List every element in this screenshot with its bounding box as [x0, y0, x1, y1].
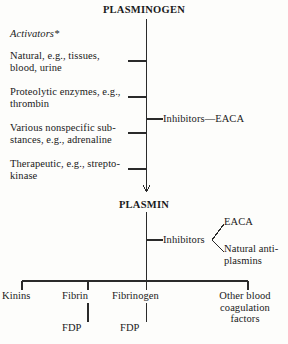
activator-proteolytic-enzymes: Proteolytic enzymes, e.g., thrombin — [10, 86, 144, 109]
product-kinins: Kinins — [2, 290, 58, 302]
activator-therapeutic: Therapeutic, e.g., strepto- kinase — [10, 158, 144, 181]
product-fibrin: Fibrin — [62, 290, 116, 302]
node-plasminogen: PLASMINOGEN — [0, 4, 288, 16]
inhibitor-branch-natural-antiplasmins: Natural anti- plasmins — [224, 243, 288, 266]
activator-nonspecific-substances: Various nonspecific sub- stances, e.g., … — [10, 122, 144, 145]
product-fdp-from-fibrin: FDP — [62, 322, 116, 334]
product-fdp-from-fibrinogen: FDP — [120, 322, 174, 334]
node-plasmin: PLASMIN — [0, 199, 288, 211]
activator-natural: Natural, e.g., tissues, blood, urine — [10, 50, 140, 73]
product-fibrinogen: Fibrinogen — [112, 290, 182, 302]
inhibitors-plasmin-label: Inhibitors — [163, 234, 215, 246]
inhibitor-branch-eaca: EACA — [224, 216, 284, 228]
fibrinolysis-pathway-diagram: PLASMINOGEN Activators* Natural, e.g., t… — [0, 0, 288, 344]
activators-caption: Activators* — [10, 28, 130, 40]
product-other-coagulation-factors: Other blood coagulation factors — [204, 290, 286, 325]
inhibitors-plasminogen-eaca: Inhibitors—EACA — [163, 113, 283, 125]
